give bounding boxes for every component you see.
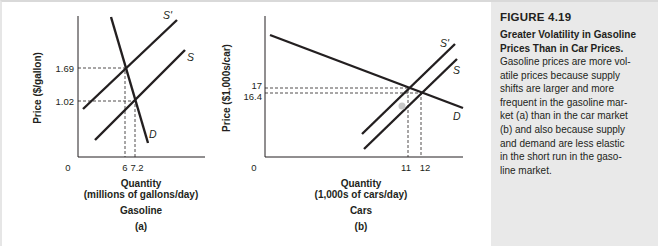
chart-b-faint-dot <box>399 103 406 110</box>
chart-b-guide-2 <box>265 93 421 157</box>
chart-a-xtick-2: 7.2 <box>130 162 143 173</box>
chart-a-xtick-1: 6 <box>122 162 127 173</box>
chart-b-xlabel: Quantity <box>341 178 382 189</box>
figure-number: FIGURE 4.19 <box>500 10 658 24</box>
chart-b-guide-1 <box>265 88 408 157</box>
figure-caption-panel: FIGURE 4.19 Greater Volatility in Gasoli… <box>491 2 658 246</box>
chart-b-ytick-2: 16.4 <box>244 91 263 102</box>
chart-b-origin: 0 <box>251 162 256 173</box>
chart-b-title: Cars <box>350 205 373 216</box>
chart-a-ytick-2: 1.02 <box>56 96 75 107</box>
figure-title: Greater Volatility in Gasoline Prices Th… <box>500 28 658 55</box>
chart-b-s-label: S <box>453 64 460 76</box>
figure-body-line: ket (a) than in the car market <box>500 109 658 123</box>
chart-b-xlabel-sub: (1,000s of cars/day) <box>315 189 408 200</box>
chart-a-panel-label: (a) <box>135 221 147 232</box>
figure-body-line: in the short run in the gaso- <box>500 150 658 164</box>
figure-body-line: and demand are less elastic <box>500 137 658 151</box>
figure-body-line: atile prices because supply <box>500 69 658 83</box>
figure-body-line: line market. <box>500 164 658 178</box>
chart-b-ytick-1: 17 <box>251 80 262 91</box>
figure-title-line: Greater Volatility in Gasoline <box>500 28 658 42</box>
chart-a-origin: 0 <box>65 162 70 173</box>
figure-body-line: shifts are larger and more <box>500 82 658 96</box>
chart-b-supply-shifted-line <box>362 44 455 134</box>
chart-a-supply-shifted-line <box>83 20 177 109</box>
figure-body-line: Gasoline prices are more vol- <box>500 55 658 69</box>
chart-a-demand-line <box>111 17 148 143</box>
chart-b-d-label: D <box>453 110 461 122</box>
chart-a-xlabel-sub: (millions of gallons/day) <box>84 189 198 200</box>
chart-a-guide-1 <box>78 68 125 157</box>
chart-a-ytick-1: 1.69 <box>56 63 75 74</box>
chart-b-s-prime-label: S' <box>440 37 450 49</box>
chart-a-s-label: S <box>187 51 194 63</box>
figure-body-line: (b) and also because supply <box>500 123 658 137</box>
chart-a-supply-line <box>95 50 185 140</box>
chart-a-title: Gasoline <box>120 205 163 216</box>
chart-b-ylabel: Price ($1,000s/car) <box>221 44 232 132</box>
chart-a-s-prime-label: S' <box>163 9 173 21</box>
chart-a-ylabel: Price ($/gallon) <box>32 52 43 124</box>
chart-a-xlabel: Quantity <box>121 178 162 189</box>
chart-b-xtick-1: 11 <box>401 162 411 173</box>
chart-a-axes <box>78 16 205 157</box>
chart-b-axes <box>265 16 463 157</box>
chart-b-panel-label: (b) <box>355 221 368 232</box>
chart-b-supply-line <box>364 59 457 149</box>
chart-b-xtick-2: 12 <box>420 162 431 173</box>
chart-b-cars: S' S D 17 16.4 0 11 12 Price ($1,000s/ca… <box>221 16 463 232</box>
figure-body-line: frequent in the gasoline mar- <box>500 96 658 110</box>
chart-a-gasoline: S' S D 1.69 1.02 0 6 7.2 Price ($/gallon… <box>32 9 205 232</box>
figure-body: Gasoline prices are more vol- atile pric… <box>500 55 658 177</box>
chart-a-d-label: D <box>149 128 157 140</box>
figure-title-line: Prices Than in Car Prices. <box>500 42 658 56</box>
chart-b-demand-line <box>270 35 463 108</box>
